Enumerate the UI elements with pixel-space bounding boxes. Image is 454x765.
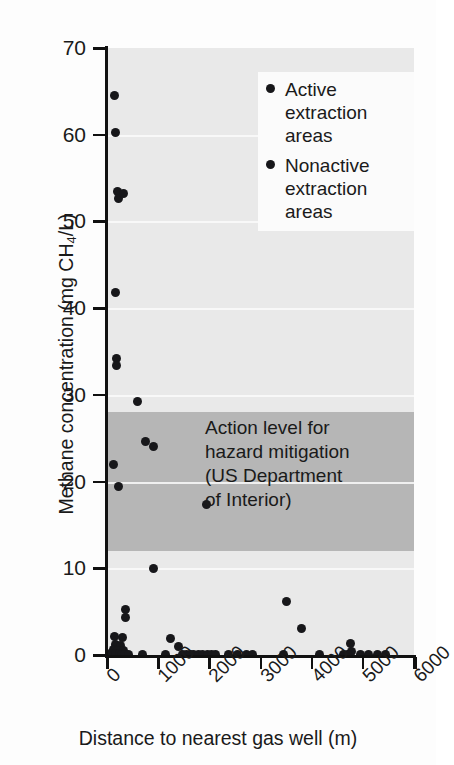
annotation-line: (US Department: [205, 464, 410, 488]
y-tick: [93, 654, 106, 657]
data-point: [111, 288, 120, 297]
data-point: [282, 597, 291, 606]
y-tick: [93, 567, 106, 570]
legend: Active extraction areas Nonactive extrac…: [258, 72, 414, 231]
data-point: [119, 189, 128, 198]
x-tick-label: 6000: [410, 642, 453, 685]
gridline: [107, 395, 414, 397]
y-tick-label: 70: [30, 37, 86, 58]
y-tick: [93, 481, 106, 484]
y-axis-title: Methane concentration (mg CH4/L): [55, 64, 79, 664]
annotation-line: Action level for: [205, 416, 410, 440]
y-tick: [93, 134, 106, 137]
legend-item-active: Active extraction areas: [262, 78, 410, 147]
data-point: [110, 91, 119, 100]
x-tick-label: 0: [103, 665, 124, 686]
y-tick: [93, 47, 106, 50]
data-point: [166, 634, 175, 643]
legend-marker-icon: [266, 160, 275, 169]
data-point: [111, 128, 120, 137]
legend-item-label: Nonactive extraction areas: [285, 154, 410, 223]
action-level-annotation: Action level forhazard mitigation(US Dep…: [205, 416, 410, 512]
y-tick: [93, 394, 106, 397]
y-axis-line: [105, 46, 108, 657]
data-point: [297, 624, 306, 633]
y-tick: [93, 307, 106, 310]
data-point: [149, 442, 158, 451]
y-tick: [93, 220, 106, 223]
data-point: [149, 564, 158, 573]
data-point: [133, 397, 142, 406]
legend-item-label: Active extraction areas: [285, 78, 410, 147]
legend-item-nonactive: Nonactive extraction areas: [262, 154, 410, 223]
legend-marker-icon: [266, 84, 275, 93]
annotation-line: hazard mitigation: [205, 440, 410, 464]
data-point: [112, 361, 121, 370]
data-point: [109, 460, 118, 469]
annotation-line: of Interior): [205, 488, 410, 512]
gridline: [107, 308, 414, 310]
data-point: [121, 613, 130, 622]
x-axis-title: Distance to nearest gas well (m): [0, 727, 436, 750]
